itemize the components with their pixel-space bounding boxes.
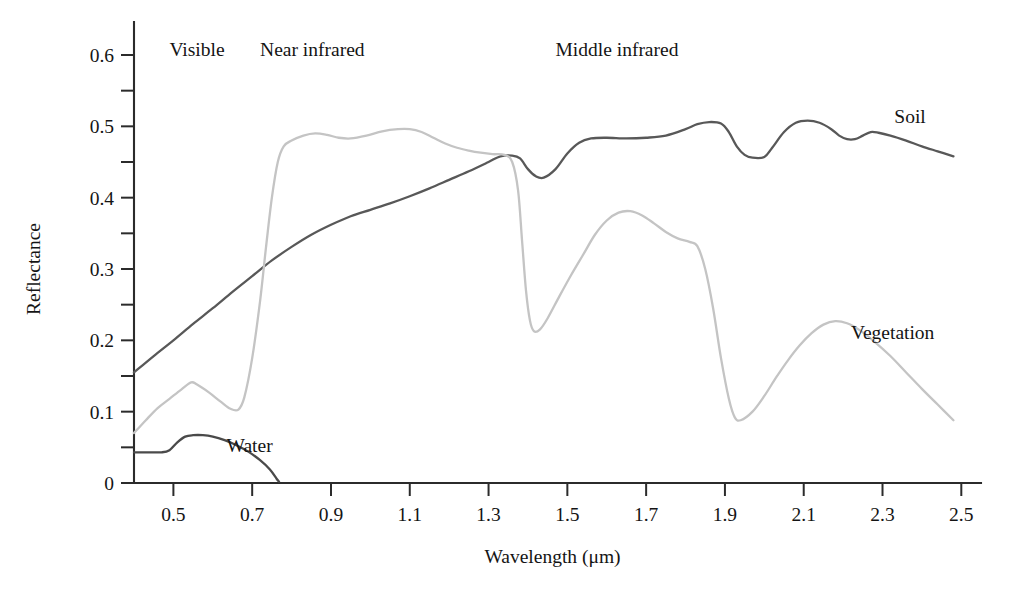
- series-label-water: Water: [227, 435, 274, 456]
- band-label-middle-infrared: Middle infrared: [556, 39, 679, 60]
- x-tick-label: 1.9: [713, 504, 737, 525]
- x-tick-label: 1.3: [476, 504, 500, 525]
- x-tick-label: 0.9: [319, 504, 343, 525]
- x-tick-label: 1.7: [634, 504, 659, 525]
- y-tick-label: 0.5: [90, 116, 114, 137]
- y-tick-label: 0.2: [90, 330, 114, 351]
- x-tick-label: 0.5: [161, 504, 185, 525]
- y-axis-title: Reflectance: [23, 223, 44, 315]
- x-axis-title: Wavelength (μm): [484, 546, 620, 568]
- series-inline-labels: SoilVegetationWater: [227, 106, 935, 457]
- y-tick-label: 0.3: [90, 259, 114, 280]
- y-axis-tick-labels: 00.10.20.30.40.50.6: [90, 45, 115, 494]
- series-label-vegetation: Vegetation: [851, 322, 935, 343]
- curve-vegetation: [134, 129, 953, 433]
- x-tick-label: 1.1: [398, 504, 422, 525]
- spectral-band-labels: VisibleNear infraredMiddle infrared: [169, 39, 678, 60]
- x-tick-label: 2.5: [949, 504, 973, 525]
- x-axis-ticks: [173, 483, 961, 496]
- x-tick-label: 2.3: [870, 504, 894, 525]
- data-curves: [134, 121, 953, 482]
- curve-soil: [134, 121, 953, 373]
- y-tick-label: 0.6: [90, 45, 115, 66]
- y-tick-label: 0: [104, 473, 114, 494]
- band-label-visible: Visible: [169, 39, 224, 60]
- band-label-near-infrared: Near infrared: [260, 39, 365, 60]
- y-axis-ticks: [121, 55, 134, 483]
- x-tick-label: 0.7: [240, 504, 265, 525]
- x-tick-label: 1.5: [555, 504, 579, 525]
- chart-canvas: 00.10.20.30.40.50.6 0.50.70.91.11.31.51.…: [0, 0, 1024, 591]
- y-tick-label: 0.4: [90, 188, 115, 209]
- axes-group: [134, 22, 981, 483]
- spectral-reflectance-figure: 00.10.20.30.40.50.6 0.50.70.91.11.31.51.…: [0, 0, 1024, 591]
- x-tick-label: 2.1: [792, 504, 816, 525]
- series-label-soil: Soil: [894, 106, 926, 127]
- x-axis-tick-labels: 0.50.70.91.11.31.51.71.92.12.32.5: [161, 504, 973, 525]
- y-tick-label: 0.1: [90, 402, 114, 423]
